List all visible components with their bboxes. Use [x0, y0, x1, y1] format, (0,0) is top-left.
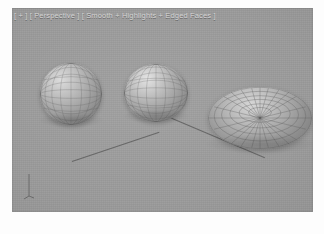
viewport-label-expand[interactable]: [ + ] [14, 11, 27, 20]
construction-line-left [72, 132, 160, 162]
screenshot-root: [ + ] [ Perspective ] [ Smooth + Highlig… [0, 0, 324, 234]
viewport-scene [12, 8, 313, 212]
axis-tripod-icon [22, 172, 36, 200]
viewport-label-view[interactable]: [ Perspective ] [30, 11, 80, 20]
perspective-viewport[interactable]: [ + ] [ Perspective ] [ Smooth + Highlig… [12, 8, 313, 212]
ground-shadow-ellipsoid [204, 134, 313, 154]
ground-shadow-sphere-2 [122, 108, 190, 124]
viewport-label[interactable]: [ + ] [ Perspective ] [ Smooth + Highlig… [14, 11, 216, 20]
ground-shadow-sphere-1 [38, 112, 104, 128]
viewport-label-shading[interactable]: [ Smooth + Highlights + Edged Faces ] [82, 11, 216, 20]
